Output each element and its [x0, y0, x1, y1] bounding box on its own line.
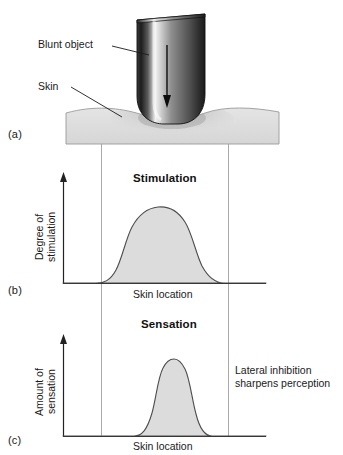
- panel-b-y-axis: [60, 172, 67, 283]
- panel-c-title: Sensation: [141, 318, 197, 330]
- panel-b-chart: [60, 172, 266, 284]
- blunt-object-label: Blunt object: [38, 38, 93, 50]
- panel-b-y-axis-label: Degree of stimulation: [34, 196, 58, 278]
- cylinder-blunt-object-icon: [137, 14, 205, 124]
- panel-marker-b: (b): [8, 284, 22, 296]
- lateral-inhibition-annotation: Lateral inhibition sharpens perception: [235, 364, 330, 391]
- panel-b-title: Stimulation: [133, 172, 197, 184]
- panel-marker-c: (c): [8, 434, 21, 446]
- panel-c-y-axis: [60, 334, 67, 436]
- panel-a-illustration: [66, 14, 279, 144]
- lateral-inhibition-figure: (a) Blunt object Skin (b) Stimulation De…: [0, 0, 343, 455]
- panel-marker-a: (a): [8, 128, 22, 140]
- panel-c-y-axis-label: Amount of sensation: [34, 352, 58, 432]
- panel-c-x-axis-label: Skin location: [133, 440, 193, 452]
- skin-label: Skin: [38, 80, 58, 92]
- stimulation-curve: [63, 207, 266, 283]
- panel-b-x-axis-label: Skin location: [133, 288, 193, 300]
